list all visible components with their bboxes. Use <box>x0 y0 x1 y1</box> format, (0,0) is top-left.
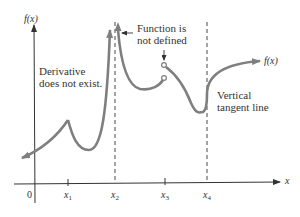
curve-label: f(x) <box>264 55 278 66</box>
curve-left-branch <box>22 120 68 158</box>
tick-label-x3: x3 <box>161 189 169 202</box>
annotation-undefined-line2: not defined <box>137 34 187 46</box>
tick-label-x1: x1 <box>64 189 72 202</box>
annotation-derivative-line2: does not exist. <box>39 77 102 89</box>
tick-label-x4: x4 <box>203 189 211 202</box>
annotation-vertical-tangent-line1: Vertical <box>217 89 269 101</box>
annotation-vertical-tangent: Vertical tangent line <box>217 89 269 113</box>
origin-label: 0 <box>27 189 32 200</box>
annotation-derivative-line1: Derivative <box>39 65 102 77</box>
y-axis-label: f(x) <box>24 13 38 24</box>
annotation-vertical-tangent-line2: tangent line <box>217 101 269 113</box>
x-axis-label: x <box>285 175 289 186</box>
open-circle-upper <box>162 63 167 68</box>
tick-label-x2: x2 <box>111 189 119 202</box>
annotation-undefined: Function is not defined <box>137 22 187 46</box>
open-circle-lower <box>162 76 167 81</box>
annotation-derivative: Derivative does not exist. <box>39 65 102 89</box>
x-axis <box>14 182 280 184</box>
annotation-undefined-line1: Function is <box>137 22 187 34</box>
curve-after-discontinuity <box>166 67 207 113</box>
curve-cusp-to-asymptote <box>68 30 110 150</box>
curve-arrowhead-up <box>115 22 122 31</box>
y-axis <box>34 25 35 203</box>
